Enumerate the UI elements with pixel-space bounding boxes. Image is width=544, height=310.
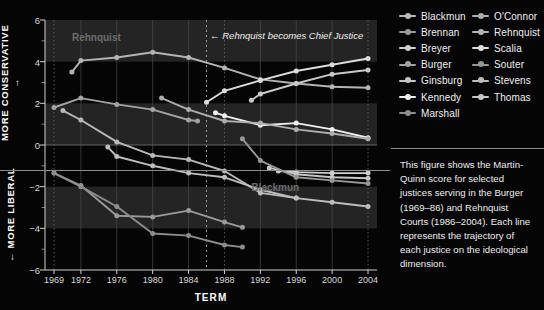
- y-tick--4: −4: [29, 223, 40, 234]
- plot-area: 6420−2−4−6 19691972197619801984198819921…: [45, 20, 377, 270]
- legend-item-ginsburg[interactable]: Ginsburg: [399, 73, 468, 89]
- legend-swatch-icon: [472, 28, 489, 37]
- panel-divider-horizontal: [0, 170, 390, 171]
- legend-label: Ginsburg: [421, 75, 462, 86]
- blackmun-series-label: Blackmun: [251, 182, 299, 193]
- x-tick-1992: 1992: [250, 275, 270, 285]
- legend-swatch-icon: [472, 76, 489, 85]
- x-tick-1972: 1972: [71, 275, 91, 285]
- grid-band-1: [45, 103, 377, 145]
- legend-label: Breyer: [421, 43, 451, 54]
- x-tick-1996: 1996: [286, 275, 306, 285]
- rehnquist-series-label: Rehnquist: [72, 32, 121, 43]
- y-tick-4: 4: [35, 56, 40, 67]
- legend-label: Stevens: [494, 75, 531, 86]
- legend-item-rehnquist[interactable]: Rehnquist: [472, 24, 541, 40]
- legend-swatch-icon: [472, 93, 489, 102]
- legend-item-brennan[interactable]: Brennan: [399, 24, 468, 40]
- legend-label: Kennedy: [421, 92, 461, 103]
- x-axis-title: TERM: [45, 292, 377, 303]
- y-tick-6: 6: [35, 15, 40, 26]
- legend: BlackmunBrennanBreyerBurgerGinsburgKenne…: [399, 8, 541, 121]
- legend-label: Brennan: [421, 27, 460, 38]
- y-axis-label-liberal: ← MORE LIBERAL: [2, 156, 18, 274]
- side-panel: BlackmunBrennanBreyerBurgerGinsburgKenne…: [391, 0, 544, 310]
- legend-item-burger[interactable]: Burger: [399, 57, 468, 73]
- legend-column-2: O'ConnorRehnquistScaliaSouterStevensThom…: [472, 8, 541, 121]
- legend-label: Rehnquist: [494, 27, 540, 38]
- x-tick-1988: 1988: [214, 275, 234, 285]
- legend-item-kennedy[interactable]: Kennedy: [399, 89, 468, 105]
- legend-label: Souter: [494, 59, 524, 70]
- figure-root: MORE CONSERVATIVE → ← MORE LIBERAL 6420−…: [0, 0, 544, 310]
- x-tick-1969: 1969: [44, 275, 64, 285]
- figure-caption: This figure shows the Martin-Quinn score…: [400, 158, 536, 272]
- chart-panel: MORE CONSERVATIVE → ← MORE LIBERAL 6420−…: [0, 8, 390, 310]
- legend-swatch-icon: [399, 12, 416, 21]
- legend-label: O'Connor: [494, 11, 537, 22]
- legend-swatch-icon: [399, 44, 416, 53]
- legend-swatch-icon: [472, 44, 489, 53]
- legend-item-blackmun[interactable]: Blackmun: [399, 8, 468, 24]
- legend-swatch-icon: [399, 28, 416, 37]
- x-tick-2000: 2000: [322, 275, 342, 285]
- legend-label: Marshall: [421, 108, 460, 119]
- y-tick--6: −6: [29, 265, 40, 276]
- legend-column-1: BlackmunBrennanBreyerBurgerGinsburgKenne…: [399, 8, 468, 121]
- legend-item-stevens[interactable]: Stevens: [472, 73, 541, 89]
- y-tick--2: −2: [29, 181, 40, 192]
- legend-swatch-icon: [472, 60, 489, 69]
- x-tick-1980: 1980: [143, 275, 163, 285]
- legend-swatch-icon: [399, 109, 416, 118]
- series-scalia: [204, 56, 371, 105]
- legend-item-thomas[interactable]: Thomas: [472, 89, 541, 105]
- rehnquist-chief-justice: ← Rehnquist becomes Chief Justice: [210, 30, 363, 41]
- legend-swatch-icon: [399, 60, 416, 69]
- legend-item-souter[interactable]: Souter: [472, 57, 541, 73]
- grid-band-2: [45, 187, 377, 229]
- legend-swatch-icon: [472, 12, 489, 21]
- y-tick-0: 0: [35, 140, 40, 151]
- legend-swatch-icon: [399, 93, 416, 102]
- x-tick-1984: 1984: [179, 275, 199, 285]
- legend-label: Blackmun: [421, 11, 466, 22]
- legend-label: Scalia: [494, 43, 522, 54]
- y-axis-label-conservative: MORE CONSERVATIVE →: [2, 24, 18, 142]
- x-tick-1976: 1976: [107, 275, 127, 285]
- legend-label: Burger: [421, 59, 452, 70]
- legend-swatch-icon: [399, 76, 416, 85]
- x-tick-2004: 2004: [358, 275, 378, 285]
- legend-label: Thomas: [494, 92, 531, 103]
- plot-svg: [45, 20, 377, 270]
- legend-item-marshall[interactable]: Marshall: [399, 105, 468, 121]
- legend-item-oconnor[interactable]: O'Connor: [472, 8, 541, 24]
- y-tick-2: 2: [35, 98, 40, 109]
- side-panel-divider: [391, 148, 544, 149]
- legend-item-scalia[interactable]: Scalia: [472, 40, 541, 56]
- legend-item-breyer[interactable]: Breyer: [399, 40, 468, 56]
